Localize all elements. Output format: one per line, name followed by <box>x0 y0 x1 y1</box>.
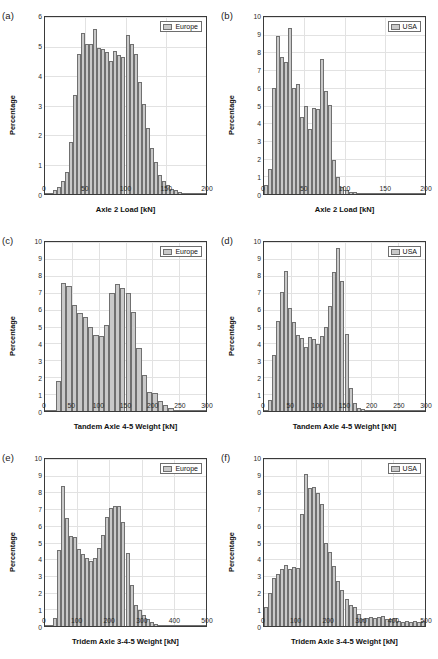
y-tick-label: 5 <box>20 323 42 330</box>
x-tick-label: 50 <box>67 402 75 409</box>
bars-b <box>264 17 425 194</box>
y-tick-label: 2 <box>239 590 261 597</box>
x-tick-label: 100 <box>71 617 82 624</box>
y-tick-label: 7 <box>239 66 261 73</box>
y-tick-label: 4 <box>239 556 261 563</box>
x-tick-label: 300 <box>420 402 431 409</box>
y-axis-ticks-a: 0123456 <box>16 16 42 195</box>
panel-letter-d: (d) <box>221 235 233 246</box>
y-tick-label: 9 <box>20 255 42 262</box>
x-tick-label: 0 <box>42 617 46 624</box>
x-tick-label: 250 <box>393 402 404 409</box>
y-tick-label: 10 <box>239 13 261 20</box>
legend-f: USA <box>388 463 421 474</box>
x-tick-label: 400 <box>169 617 180 624</box>
y-axis-title-e: Percentage <box>8 517 17 587</box>
y-tick-label: 8 <box>239 48 261 55</box>
y-axis-title-a: Percentage <box>8 80 17 150</box>
x-tick-label: 150 <box>161 185 172 192</box>
y-tick-label: 4 <box>239 120 261 127</box>
y-axis-title-c: Percentage <box>8 301 17 371</box>
figure-histogram-grid: (a)Europe0123456050100150200Axle 2 Load … <box>0 0 438 659</box>
x-tick-label: 100 <box>93 402 104 409</box>
y-tick-label: 6 <box>20 306 42 313</box>
y-tick-label: 6 <box>20 13 42 20</box>
y-tick-label: 1 <box>239 391 261 398</box>
y-tick-label: 6 <box>239 306 261 313</box>
y-tick-label: 4 <box>20 72 42 79</box>
y-tick-label: 2 <box>239 374 261 381</box>
y-tick-label: 7 <box>239 289 261 296</box>
x-tick-label: 500 <box>420 617 431 624</box>
y-tick-label: 9 <box>239 255 261 262</box>
y-tick-label: 10 <box>239 238 261 245</box>
x-axis-title-b: Axle 2 Load [kN] <box>263 205 426 214</box>
y-tick-label: 2 <box>239 156 261 163</box>
y-tick-label: 3 <box>239 357 261 364</box>
x-tick-label: 150 <box>339 402 350 409</box>
y-tick-label: 0 <box>239 192 261 199</box>
plot-area-f: USA <box>263 458 426 627</box>
panel-a: (a)Europe0123456050100150200Axle 2 Load … <box>0 2 219 227</box>
y-tick-label: 2 <box>20 374 42 381</box>
x-tick-label: 0 <box>42 185 46 192</box>
x-axis-title-d: Tandem Axle 4-5 Weight [kN] <box>263 422 426 431</box>
y-axis-ticks-c: 012345678910 <box>16 241 42 412</box>
x-axis-title-f: Tridem Axle 3-4-5 Weight [kN] <box>263 637 426 646</box>
x-axis-ticks-f: 0100200300400500 <box>263 615 426 627</box>
x-tick-label: 50 <box>81 185 89 192</box>
y-tick-label: 8 <box>239 272 261 279</box>
y-tick-label: 7 <box>20 289 42 296</box>
y-tick-label: 1 <box>20 162 42 169</box>
y-axis-ticks-e: 012345678910 <box>16 458 42 627</box>
x-axis-title-a: Axle 2 Load [kN] <box>44 205 207 214</box>
x-axis-ticks-a: 050100150200 <box>44 183 207 195</box>
y-tick-label: 6 <box>239 84 261 91</box>
plot-area-b: USA <box>263 16 426 195</box>
x-tick-label: 150 <box>120 402 131 409</box>
y-tick-label: 9 <box>239 471 261 478</box>
x-tick-label: 0 <box>261 402 265 409</box>
y-tick-label: 0 <box>239 624 261 631</box>
panel-b: (b)USA012345678910050100150200Axle 2 Loa… <box>219 2 438 227</box>
y-axis-ticks-b: 012345678910 <box>235 16 261 195</box>
x-tick-label: 200 <box>104 617 115 624</box>
bars-f <box>264 459 425 626</box>
y-tick-label: 3 <box>239 573 261 580</box>
y-tick-label: 0 <box>20 409 42 416</box>
legend-label: Europe <box>175 23 198 30</box>
x-axis-title-c: Tandem Axle 4-5 Weight [kN] <box>44 422 207 431</box>
legend-label: USA <box>403 23 417 30</box>
x-tick-label: 0 <box>42 402 46 409</box>
x-tick-label: 100 <box>290 617 301 624</box>
y-tick-label: 8 <box>239 488 261 495</box>
x-axis-ticks-e: 0100200300400500 <box>44 615 207 627</box>
x-axis-ticks-c: 050100150200250300 <box>44 400 207 412</box>
y-tick-label: 5 <box>239 323 261 330</box>
bars-d <box>264 242 425 411</box>
y-axis-title-b: Percentage <box>227 80 236 150</box>
x-tick-label: 0 <box>261 617 265 624</box>
y-tick-label: 9 <box>20 471 42 478</box>
x-tick-label: 50 <box>286 402 294 409</box>
legend-e: Europe <box>160 463 202 474</box>
bars-a <box>45 17 206 194</box>
y-tick-label: 6 <box>239 522 261 529</box>
legend-c: Europe <box>160 246 202 257</box>
y-tick-label: 1 <box>239 607 261 614</box>
legend-swatch-icon <box>163 466 172 472</box>
x-tick-label: 100 <box>312 402 323 409</box>
legend-label: Europe <box>175 248 198 255</box>
panel-letter-a: (a) <box>2 10 14 21</box>
x-tick-label: 0 <box>261 185 265 192</box>
y-tick-label: 7 <box>20 505 42 512</box>
y-tick-label: 5 <box>20 42 42 49</box>
x-tick-label: 200 <box>323 617 334 624</box>
bars-e <box>45 459 206 626</box>
y-tick-label: 4 <box>20 340 42 347</box>
x-tick-label: 300 <box>201 402 212 409</box>
y-tick-label: 4 <box>20 556 42 563</box>
y-tick-label: 5 <box>20 539 42 546</box>
x-tick-label: 300 <box>136 617 147 624</box>
legend-swatch-icon <box>163 249 172 255</box>
